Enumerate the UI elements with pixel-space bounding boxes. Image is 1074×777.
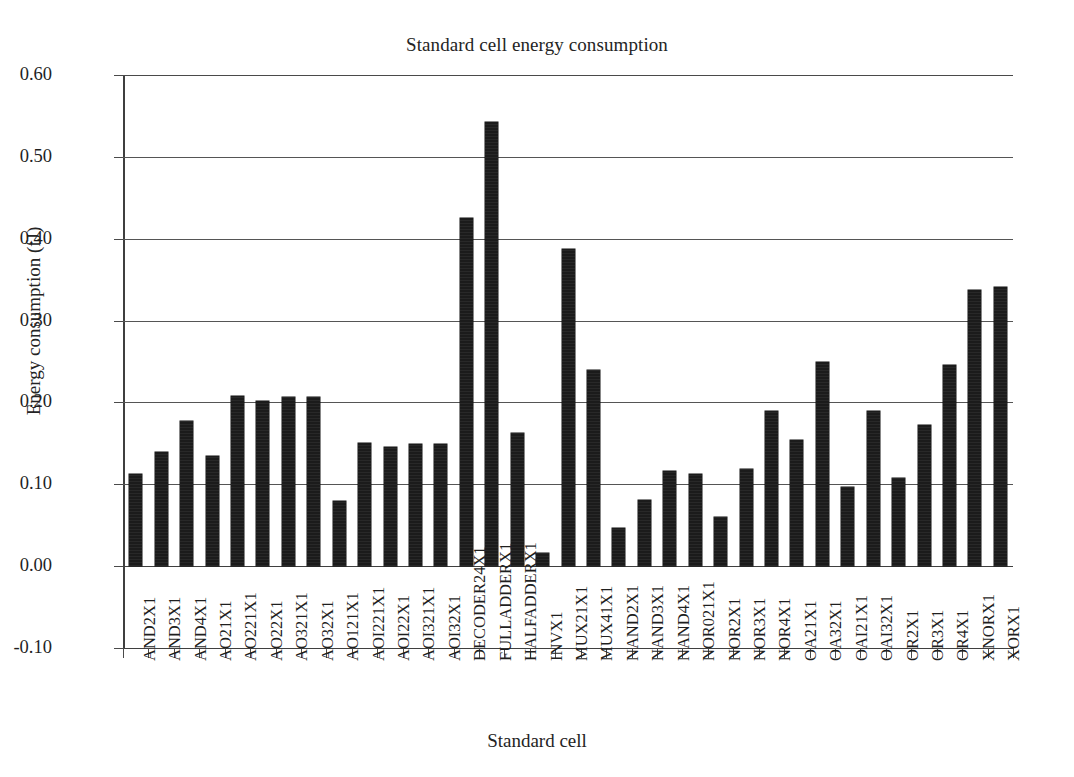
y-tick-mark (114, 566, 123, 567)
x-category-label: NOR3X1 (752, 598, 769, 661)
x-category-label: DECODER24X1 (472, 546, 489, 661)
gridline (123, 566, 1013, 567)
y-tick-label: 0.60 (0, 65, 52, 84)
x-category-label: MUX41X1 (599, 586, 616, 661)
x-category-label: XORX1 (1006, 606, 1023, 661)
bar (409, 444, 422, 566)
bar (867, 411, 880, 567)
x-category-label: AO221X1 (243, 592, 260, 661)
bar (765, 411, 778, 567)
x-category-label: AO32X1 (320, 601, 337, 662)
y-tick-mark (114, 648, 123, 649)
bar (918, 425, 931, 566)
y-tick-mark (114, 402, 123, 403)
x-category-label: AOI22X1 (396, 595, 413, 661)
y-tick-mark (114, 75, 123, 76)
x-category-label: NAND3X1 (650, 585, 667, 661)
y-tick-mark (114, 484, 123, 485)
bar (180, 421, 193, 566)
y-tick-label: 0.20 (0, 392, 52, 411)
x-category-label: FULLADDERX1 (498, 543, 515, 661)
bar (612, 528, 625, 566)
y-tick-mark (114, 157, 123, 158)
bar (206, 456, 219, 567)
bar (485, 122, 498, 566)
bar (943, 365, 956, 566)
bar (231, 396, 244, 566)
bar (282, 397, 295, 566)
bar (841, 487, 854, 566)
x-category-label: AO22X1 (269, 601, 286, 662)
bar (587, 370, 600, 566)
gridline (123, 157, 1013, 158)
bar (816, 362, 829, 566)
bar (663, 471, 676, 566)
x-category-label: NAND2X1 (625, 585, 642, 661)
bar (434, 444, 447, 566)
x-category-label: AOI321X1 (421, 587, 438, 661)
x-category-label: NOR4X1 (777, 598, 794, 661)
x-category-label: OAI21X1 (854, 595, 871, 661)
y-tick-mark (114, 321, 123, 322)
x-category-label: AO21X1 (218, 601, 235, 662)
bar (256, 401, 269, 566)
bar (307, 397, 320, 566)
y-tick-mark (114, 239, 123, 240)
bar (384, 447, 397, 567)
x-category-label: AOI221X1 (371, 587, 388, 661)
bar (994, 287, 1007, 566)
bar (790, 440, 803, 566)
bar (333, 501, 346, 566)
chart-title: Standard cell energy consumption (0, 34, 1074, 56)
bar (689, 474, 702, 566)
y-tick-label: 0.00 (0, 556, 52, 575)
x-category-label: OR3X1 (930, 610, 947, 661)
bar (358, 443, 371, 566)
x-category-label: INVX1 (549, 612, 566, 662)
x-category-label: OAI32X1 (879, 595, 896, 661)
x-category-label: NOR021X1 (701, 581, 718, 661)
bar (155, 452, 168, 566)
gridline (123, 75, 1013, 76)
y-tick-label: 0.40 (0, 229, 52, 248)
bar (968, 290, 981, 566)
x-category-label: OA21X1 (803, 601, 820, 662)
x-category-label: AND2X1 (142, 597, 159, 661)
x-axis-title: Standard cell (0, 730, 1074, 752)
x-category-label: AND4X1 (193, 597, 210, 661)
bar (892, 478, 905, 566)
bar (562, 249, 575, 567)
chart-figure: Standard cell energy consumption Energy … (0, 0, 1074, 777)
bar (638, 500, 651, 566)
x-category-label: OA32X1 (828, 601, 845, 662)
x-category-label: AO121X1 (345, 592, 362, 661)
x-category-label: AOI32X1 (447, 595, 464, 661)
x-category-label: HALFADDERX1 (523, 542, 540, 661)
y-tick-label: 0.30 (0, 311, 52, 330)
x-category-label: AND3X1 (167, 597, 184, 661)
x-category-label: MUX21X1 (574, 586, 591, 661)
x-tick-mark (123, 648, 124, 658)
bar (129, 474, 142, 566)
x-category-label: OR2X1 (905, 610, 922, 661)
x-category-label: OR4X1 (955, 610, 972, 661)
x-category-label: NOR2X1 (727, 598, 744, 661)
y-tick-label: 0.50 (0, 147, 52, 166)
x-category-label: NAND4X1 (676, 585, 693, 661)
bar (714, 517, 727, 566)
x-category-label: AO321X1 (294, 592, 311, 661)
plot-area (123, 75, 1013, 648)
x-category-label: XNORX1 (981, 594, 998, 661)
y-tick-label: 0.10 (0, 474, 52, 493)
y-tick-label: -0.10 (0, 638, 52, 657)
bar (740, 469, 753, 566)
gridline (123, 239, 1013, 240)
bar (460, 218, 473, 566)
